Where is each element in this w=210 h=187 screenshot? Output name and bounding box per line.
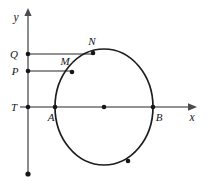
point-label-q: Q: [10, 48, 18, 60]
point-dot-y-axis-end: [25, 171, 30, 176]
geometry-figure: y x Q P T N M A B: [0, 0, 210, 187]
point-dot-q: [26, 52, 31, 57]
point-label-p: P: [11, 65, 19, 77]
x-axis: [20, 103, 197, 111]
figure-canvas: y x Q P T N M A B: [0, 0, 210, 187]
point-dot-m: [70, 70, 75, 75]
point-dot-p: [26, 69, 31, 74]
point-label-a: A: [47, 111, 55, 123]
y-axis-label: y: [12, 11, 19, 24]
y-axis-arrow-icon: [24, 8, 31, 16]
y-axis: [24, 8, 31, 174]
x-axis-arrow-icon: [188, 103, 197, 111]
point-dot-lower-arc: [126, 159, 131, 164]
point-dot-t: [26, 105, 31, 110]
point-label-m: M: [59, 55, 70, 67]
point-dot-n: [91, 51, 96, 56]
point-label-n: N: [87, 35, 96, 47]
point-markers: [25, 51, 155, 177]
x-axis-label: x: [188, 111, 195, 123]
point-dot-a: [53, 105, 58, 110]
point-dot-center: [102, 105, 107, 110]
point-label-t: T: [11, 101, 18, 113]
point-label-b: B: [156, 111, 163, 123]
point-dot-b: [151, 105, 156, 110]
